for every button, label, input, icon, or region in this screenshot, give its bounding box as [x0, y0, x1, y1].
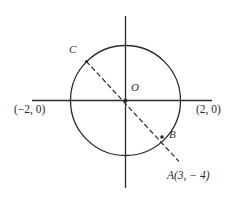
- geometry-figure: C O B A(3, − 4) (−2, 0) (2, 0): [0, 0, 237, 199]
- point-marker-b: [160, 135, 164, 139]
- point-marker-c: [85, 60, 88, 63]
- dashed-line-CA: [87, 62, 179, 162]
- point-label-o: O: [131, 82, 139, 93]
- point-label-b: B: [169, 129, 176, 140]
- x-axis-label-right: (2, 0): [196, 104, 221, 116]
- point-marker-o: [124, 99, 128, 103]
- point-label-a: A(3, − 4): [167, 170, 210, 182]
- point-label-c: C: [69, 44, 76, 55]
- x-axis-label-left: (−2, 0): [14, 104, 45, 116]
